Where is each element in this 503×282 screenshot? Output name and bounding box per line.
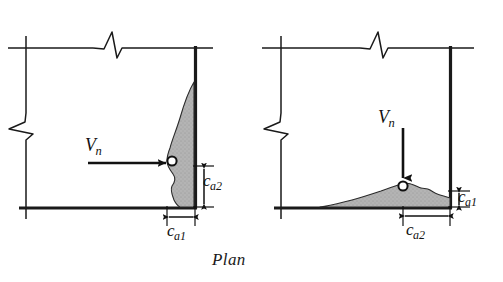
right-side-break-symbol	[264, 113, 288, 205]
left-breakout-surface	[167, 82, 194, 207]
figure-caption: Plan	[212, 250, 246, 270]
left-vn-symbol: V	[85, 135, 96, 155]
right-diagram	[262, 32, 474, 226]
left-diagram	[8, 32, 214, 226]
left-top-break-symbol	[93, 32, 197, 58]
left-vn-label: Vn	[85, 136, 102, 154]
right-side-edge	[264, 36, 288, 219]
right-anchor-marker	[398, 181, 407, 190]
right-top-edge	[262, 32, 474, 58]
figure-container: Vn Vn ca2 ca1 ca1 ca2 Plan	[0, 0, 503, 282]
left-side-break-symbol	[9, 113, 33, 205]
right-top-break-symbol	[360, 32, 452, 58]
right-ca2-label: ca2	[406, 221, 426, 238]
left-anchor-marker	[167, 156, 176, 165]
diagram-svg	[0, 0, 503, 282]
right-vn-subscript: n	[389, 116, 395, 130]
left-ca2-label: ca2	[203, 172, 223, 189]
left-ca2-subscript: a2	[210, 179, 222, 193]
right-ca1-subscript: a1	[465, 195, 477, 209]
left-top-edge	[8, 32, 213, 58]
right-vn-symbol: V	[378, 107, 389, 127]
right-ca2-subscript: a2	[413, 228, 425, 242]
left-ca1-label: ca1	[167, 222, 187, 239]
left-vn-subscript: n	[96, 144, 102, 158]
left-side-edge	[9, 36, 33, 219]
left-ca1-subscript: a1	[174, 229, 186, 243]
right-ca1-label: ca1	[458, 188, 478, 205]
right-breakout-surface	[320, 183, 450, 207]
right-vn-label: Vn	[378, 108, 395, 126]
